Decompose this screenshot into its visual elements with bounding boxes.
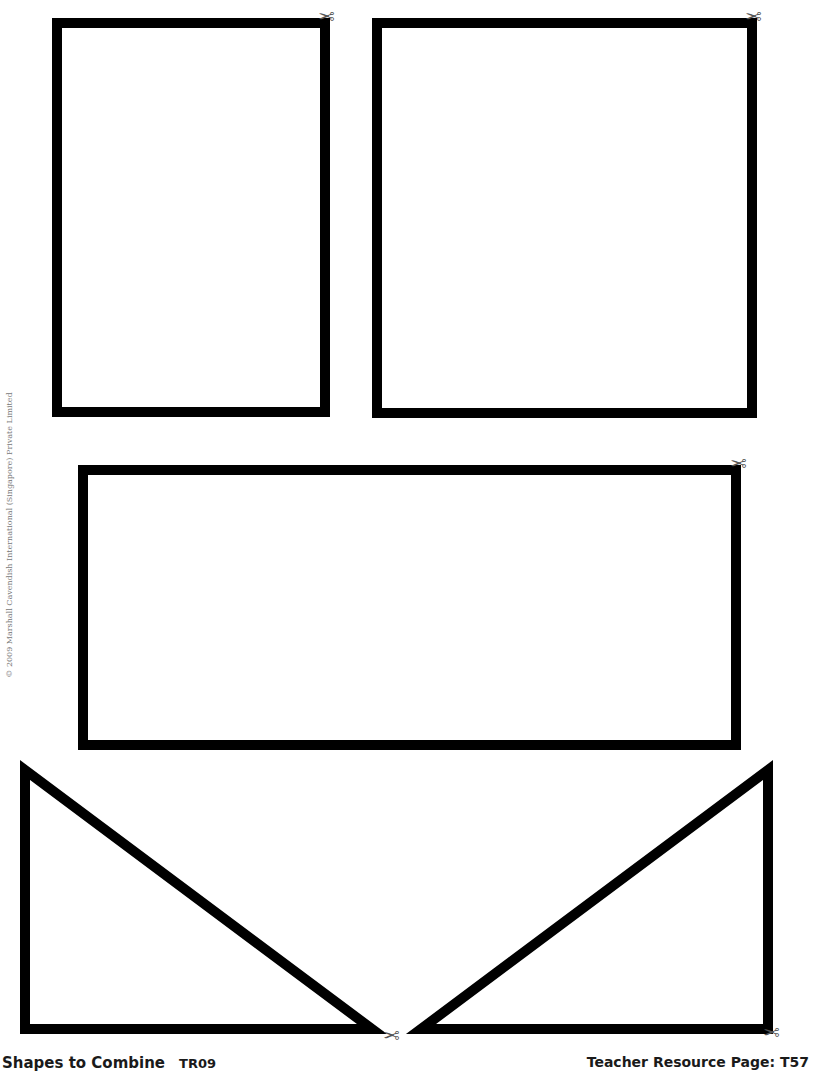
triangle-left [25, 770, 372, 1029]
page-label: Teacher Resource Page: T57 [587, 1054, 809, 1070]
scissors-icon: ✂ [763, 1022, 780, 1042]
rectangle-square [377, 23, 752, 413]
triangle-right [421, 770, 768, 1029]
scissors-icon: ✂ [745, 6, 762, 26]
scissors-icon: ✂ [383, 1025, 400, 1045]
copyright-notice: © 2009 Marshall Cavendish International … [5, 392, 14, 677]
page-title-footer: Shapes to CombineTR09 [2, 1054, 216, 1072]
resource-code: TR09 [179, 1056, 216, 1071]
cutout-shapes-canvas [0, 0, 815, 1074]
page-title: Shapes to Combine [2, 1054, 165, 1072]
scissors-icon: ✂ [730, 453, 747, 473]
scissors-icon: ✂ [318, 6, 335, 26]
rectangle-small [57, 23, 325, 412]
rectangle-wide [83, 470, 736, 745]
